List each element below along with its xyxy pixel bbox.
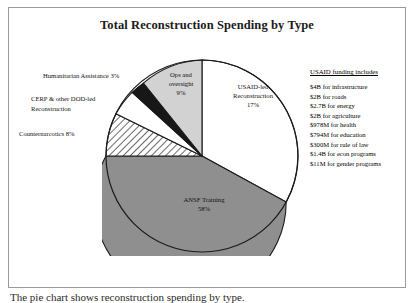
page-title: Total Reconstruction Spending by Type (9, 18, 405, 33)
label-ops-line-1: Ops and (152, 70, 210, 79)
figure-frame: Total Reconstruction Spending by Type (8, 7, 406, 288)
list-item: $2B for roads (310, 92, 410, 102)
list-item: $4B for infrastructure (310, 82, 410, 92)
list-item: $794M for education (310, 130, 410, 140)
label-usaid-line-2: Reconstruction (216, 91, 290, 100)
list-item: $978M for health (310, 120, 410, 130)
list-item: $11M for gender programs (310, 159, 410, 169)
label-ops-and-oversight: Ops and oversight 9% (152, 70, 210, 98)
label-ansf-line-2: 58% (164, 204, 244, 213)
list-item: $2.7B for energy (310, 101, 410, 111)
usaid-funding-note-heading: USAID funding includes (310, 68, 410, 75)
list-item: $1.4B for econ programs (310, 149, 410, 159)
label-ansf-line-1: ANSF Training (164, 195, 244, 204)
usaid-funding-note: USAID funding includes $4B for infrastru… (310, 68, 410, 168)
label-ops-line-3: 9% (152, 88, 210, 97)
label-usaid-line-3: 17% (216, 100, 290, 109)
label-usaid-line-1: USAID-led (216, 82, 290, 91)
label-humanitarian-assistance: Humanitarian Assistance 3% (43, 71, 119, 81)
label-usaid-led-reconstruction: USAID-led Reconstruction 17% (216, 82, 290, 110)
label-counternarcotics: Counternarcotics 8% (19, 129, 74, 139)
usaid-funding-note-list: $4B for infrastructure $2B for roads $2.… (310, 82, 410, 168)
label-ops-line-2: oversight (152, 79, 210, 88)
list-item: $300M for rule of law (310, 140, 410, 150)
label-ansf-training: ANSF Training 58% (164, 195, 244, 213)
list-item: $2B for agriculture (310, 111, 410, 121)
figure-caption: The pie chart shows reconstruction spend… (10, 291, 410, 303)
label-cerp-dod-led-reconstruction: CERP & other DOD-led Reconstruction (31, 94, 135, 113)
